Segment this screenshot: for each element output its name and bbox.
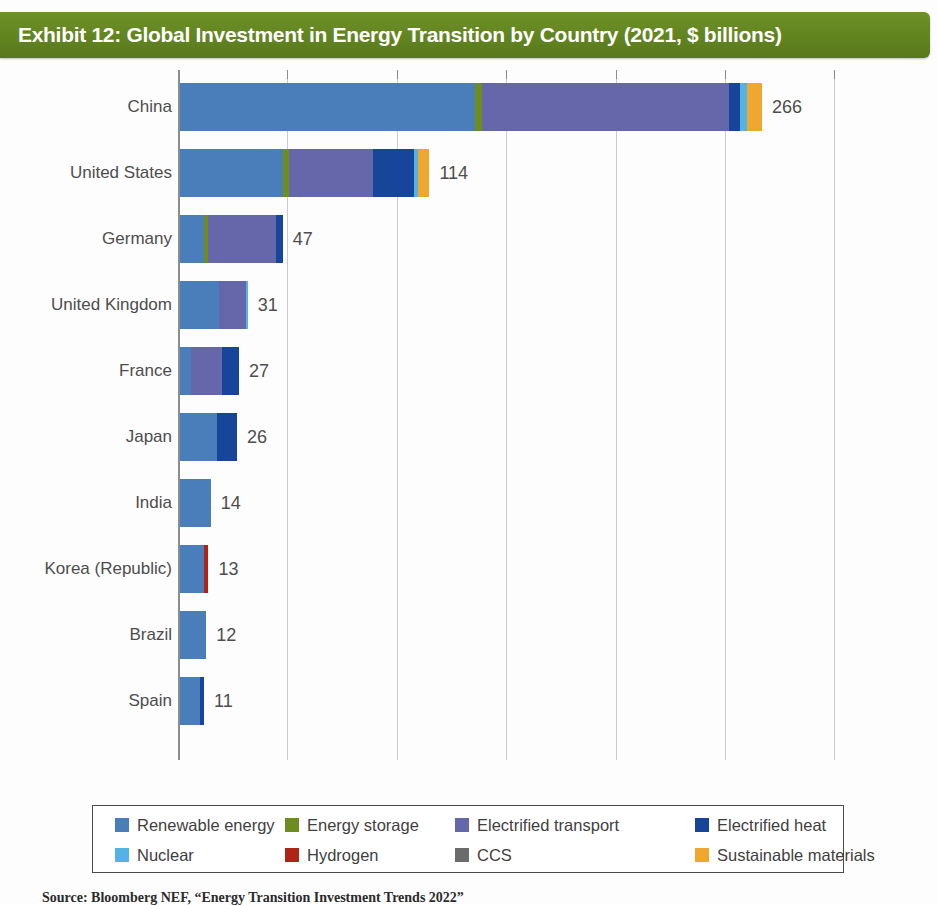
bar-value-label: 31 [258, 295, 278, 316]
bar-segment [217, 413, 237, 461]
category-label: Brazil [129, 625, 172, 645]
bar-value-label: 11 [214, 691, 233, 712]
bar-row[interactable]: Brazil12 [0, 602, 937, 668]
bar-row[interactable]: United States114 [0, 140, 937, 206]
stacked-bar[interactable] [180, 149, 429, 197]
exhibit-title-banner: Exhibit 12: Global Investment in Energy … [0, 12, 930, 58]
bar-row[interactable]: India14 [0, 470, 937, 536]
bar-segment [180, 281, 219, 329]
bar-segment [222, 347, 240, 395]
page-title: Exhibit 12: Global Investment in Energy … [18, 23, 782, 47]
bar-segment [482, 83, 729, 131]
category-label: Germany [102, 229, 172, 249]
bar-segment [180, 83, 475, 131]
stacked-bar[interactable] [180, 215, 283, 263]
stacked-bar[interactable] [180, 611, 206, 659]
legend-swatch-icon [115, 848, 129, 862]
category-label: Spain [129, 691, 172, 711]
bar-row[interactable]: Germany47 [0, 206, 937, 272]
legend-item[interactable]: Nuclear [115, 846, 194, 865]
bar-value-label: 27 [249, 361, 269, 382]
legend-item[interactable]: Electrified heat [695, 816, 826, 835]
bar-segment [204, 545, 208, 593]
stacked-bar[interactable] [180, 545, 208, 593]
bar-row[interactable]: Korea (Republic)13 [0, 536, 937, 602]
chart-plot-area: China266United States114Germany47United … [0, 66, 937, 766]
bar-segment [246, 281, 248, 329]
legend-label: Hydrogen [307, 846, 379, 865]
bar-segment [180, 545, 204, 593]
legend-item[interactable]: Renewable energy [115, 816, 275, 835]
category-label: United Kingdom [51, 295, 172, 315]
bar-segment [180, 347, 191, 395]
legend-row-bottom: NuclearHydrogenCCSSustainable materials [93, 840, 843, 870]
legend-label: Electrified heat [717, 816, 826, 835]
bar-row[interactable]: China266 [0, 74, 937, 140]
category-label: China [128, 97, 172, 117]
stacked-bar[interactable] [180, 479, 211, 527]
category-label: France [119, 361, 172, 381]
stacked-bar[interactable] [180, 677, 204, 725]
bar-segment [180, 611, 206, 659]
legend-item[interactable]: Hydrogen [285, 846, 379, 865]
stacked-bar[interactable] [180, 413, 237, 461]
legend-item[interactable]: Electrified transport [455, 816, 619, 835]
category-label: Japan [126, 427, 172, 447]
legend-item[interactable]: CCS [455, 846, 512, 865]
bar-row[interactable]: Japan26 [0, 404, 937, 470]
exhibit-chart-page: Exhibit 12: Global Investment in Energy … [0, 0, 937, 905]
legend-item[interactable]: Sustainable materials [695, 846, 875, 865]
legend-label: Renewable energy [137, 816, 275, 835]
legend-row-top: Renewable energyEnergy storageElectrifie… [93, 810, 843, 840]
stacked-bar[interactable] [180, 281, 248, 329]
bar-row[interactable]: Spain11 [0, 668, 937, 734]
bar-segment [276, 215, 283, 263]
bar-segment [180, 479, 211, 527]
bar-segment [208, 215, 276, 263]
category-label: India [135, 493, 172, 513]
category-label: United States [70, 163, 172, 183]
stacked-bar[interactable] [180, 347, 239, 395]
category-label: Korea (Republic) [44, 559, 172, 579]
legend-swatch-icon [285, 818, 299, 832]
legend-swatch-icon [115, 818, 129, 832]
legend-label: Electrified transport [477, 816, 619, 835]
legend-swatch-icon [285, 848, 299, 862]
bar-segment [418, 149, 429, 197]
bar-value-label: 12 [216, 625, 236, 646]
bar-segment [747, 83, 762, 131]
legend-swatch-icon [695, 848, 709, 862]
bar-value-label: 13 [218, 559, 238, 580]
bar-value-label: 14 [221, 493, 241, 514]
bar-segment [191, 347, 222, 395]
bar-value-label: 266 [772, 97, 802, 118]
bar-value-label: 114 [439, 163, 468, 184]
bar-segment [729, 83, 740, 131]
bar-segment [219, 281, 245, 329]
legend-label: Sustainable materials [717, 846, 875, 865]
legend-swatch-icon [455, 848, 469, 862]
bar-segment [180, 149, 283, 197]
legend-swatch-icon [695, 818, 709, 832]
bar-row[interactable]: United Kingdom31 [0, 272, 937, 338]
legend-label: CCS [477, 846, 512, 865]
legend-swatch-icon [455, 818, 469, 832]
legend-label: Energy storage [307, 816, 419, 835]
bar-segment [180, 677, 200, 725]
bar-segment [180, 413, 217, 461]
bar-segment [289, 149, 372, 197]
bar-segment [200, 677, 204, 725]
bar-row[interactable]: France27 [0, 338, 937, 404]
legend-item[interactable]: Energy storage [285, 816, 419, 835]
bar-value-label: 47 [293, 229, 313, 250]
chart-legend: Renewable energyEnergy storageElectrifie… [92, 805, 844, 873]
source-note: Source: Bloomberg NEF, “Energy Transitio… [42, 890, 932, 905]
bar-segment [180, 215, 204, 263]
bar-segment [373, 149, 415, 197]
bar-value-label: 26 [247, 427, 267, 448]
stacked-bar[interactable] [180, 83, 762, 131]
legend-label: Nuclear [137, 846, 194, 865]
